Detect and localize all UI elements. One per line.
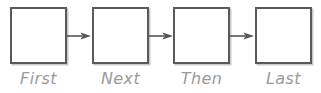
flow-sequence: First Next Then <box>0 0 321 93</box>
flow-node-box[interactable] <box>10 7 67 64</box>
flow-step-first[interactable]: First <box>10 7 67 64</box>
flow-node-box[interactable] <box>173 7 230 64</box>
arrow-right-icon <box>147 29 173 43</box>
flow-node-label: Last <box>249 69 318 89</box>
flow-step-next[interactable]: Next <box>92 7 149 64</box>
flow-node-label: Next <box>86 69 155 89</box>
flow-diagram: First Next Then <box>0 0 321 93</box>
flow-node-label: First <box>4 69 73 89</box>
flow-step-then[interactable]: Then <box>173 7 230 64</box>
arrow-right-icon <box>65 29 91 43</box>
flow-node-label: Then <box>167 69 236 89</box>
flow-step-last[interactable]: Last <box>255 7 312 64</box>
flow-node-box[interactable] <box>255 7 312 64</box>
arrow-right-icon <box>228 29 254 43</box>
flow-node-box[interactable] <box>92 7 149 64</box>
